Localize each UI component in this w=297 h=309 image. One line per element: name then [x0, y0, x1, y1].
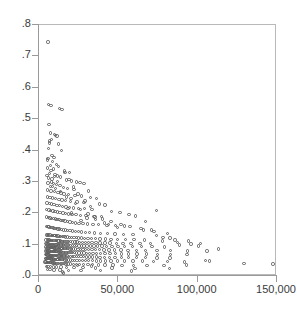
data-point — [69, 200, 72, 203]
data-point — [110, 266, 113, 269]
data-point — [98, 248, 101, 251]
data-point — [88, 231, 91, 234]
data-point — [127, 213, 130, 216]
scatter-plot-figure: .0.1.2.3.4.5.6.7.8050,000100,000150,000 — [0, 0, 297, 309]
data-point — [185, 253, 188, 256]
data-point — [59, 175, 62, 178]
data-point — [118, 211, 121, 214]
data-point — [52, 156, 55, 159]
data-point — [90, 237, 93, 240]
data-point — [57, 142, 60, 145]
data-point — [91, 259, 94, 262]
data-point — [62, 186, 65, 189]
data-point — [56, 180, 59, 183]
data-point — [120, 264, 123, 267]
data-point — [67, 178, 70, 181]
x-axis-tick — [197, 276, 198, 282]
data-point — [163, 245, 166, 248]
data-point — [59, 190, 62, 193]
data-point — [127, 256, 130, 259]
data-point — [99, 232, 102, 235]
y-axis-tick-label: .7 — [5, 49, 31, 60]
data-point — [68, 171, 71, 174]
data-point — [155, 256, 158, 259]
y-axis-tick-label: .4 — [5, 144, 31, 155]
data-point — [161, 236, 164, 239]
data-point — [72, 206, 75, 209]
y-axis-tick-label: .1 — [5, 238, 31, 249]
data-point — [161, 239, 164, 242]
data-point — [123, 245, 126, 248]
data-points-layer — [38, 24, 276, 275]
data-point — [139, 227, 142, 230]
data-point — [86, 222, 89, 225]
data-point — [98, 237, 101, 240]
data-point — [168, 236, 171, 239]
data-point — [116, 226, 119, 229]
data-point — [208, 259, 211, 262]
data-point — [63, 171, 66, 174]
data-point — [108, 252, 111, 255]
data-point — [169, 249, 172, 252]
data-point — [72, 266, 75, 269]
data-point — [144, 220, 147, 223]
data-point — [114, 252, 117, 255]
data-point — [104, 237, 107, 240]
y-axis-tick-label: .0 — [5, 269, 31, 280]
data-point — [69, 197, 72, 200]
data-point — [187, 239, 190, 242]
data-point — [65, 195, 68, 198]
data-point — [131, 259, 134, 262]
data-point — [53, 175, 56, 178]
data-point — [116, 259, 119, 262]
data-point — [83, 199, 86, 202]
data-point — [90, 208, 93, 211]
data-point — [46, 158, 49, 161]
data-point — [107, 223, 110, 226]
x-axis-tick — [38, 276, 39, 282]
data-point — [79, 208, 82, 211]
data-point — [133, 267, 136, 270]
data-point — [123, 224, 126, 227]
data-point — [178, 243, 181, 246]
data-point — [122, 233, 125, 236]
data-point — [134, 214, 137, 217]
data-point — [94, 237, 97, 240]
data-point — [132, 238, 135, 241]
data-point — [95, 259, 98, 262]
data-point — [66, 207, 69, 210]
data-point — [98, 202, 101, 205]
data-point — [48, 141, 51, 144]
data-point — [140, 245, 143, 248]
data-point — [48, 268, 51, 271]
data-point — [109, 259, 112, 262]
data-point — [141, 259, 144, 262]
data-point — [87, 259, 90, 262]
data-point — [99, 252, 102, 255]
data-point — [50, 180, 53, 183]
data-point — [166, 232, 169, 235]
data-point — [135, 256, 138, 259]
data-point — [80, 194, 83, 197]
data-point — [83, 207, 86, 210]
data-point — [79, 214, 82, 217]
data-point — [91, 223, 94, 226]
data-point — [64, 199, 67, 202]
data-point — [46, 40, 49, 43]
data-point — [128, 225, 131, 228]
data-point — [81, 222, 84, 225]
data-point — [97, 263, 100, 266]
data-point — [82, 182, 85, 185]
x-axis-line — [38, 275, 277, 276]
data-point — [123, 259, 126, 262]
data-point — [60, 149, 63, 152]
data-point — [189, 242, 192, 245]
data-point — [113, 232, 116, 235]
data-point — [86, 237, 89, 240]
data-point — [99, 259, 102, 262]
data-point — [116, 238, 119, 241]
data-point — [49, 104, 52, 107]
x-axis-tick-label: 150,000 — [256, 284, 296, 295]
data-point — [162, 264, 165, 267]
data-point — [130, 269, 133, 272]
